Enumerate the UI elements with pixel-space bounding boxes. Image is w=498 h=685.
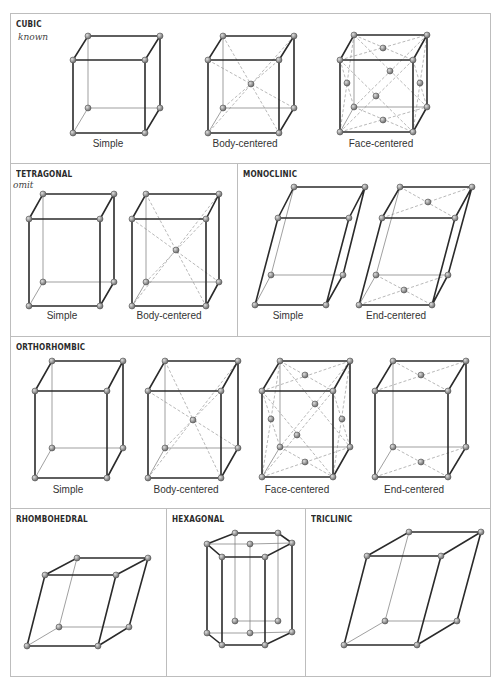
- orthorhombic-face-centered-lattice: [259, 358, 353, 480]
- orthorhombic-body-centered-lattice: [145, 358, 241, 481]
- orthorhombic-simple-lattice: [32, 358, 126, 481]
- monoclinic-simple-lattice: [252, 184, 368, 308]
- cubic-body-centered-lattice: [205, 33, 297, 136]
- cubic-face-centered-lattice: [337, 32, 430, 135]
- tetragonal-body-centered-lattice: [129, 191, 222, 309]
- orthorhombic-end-centered-lattice: [372, 358, 469, 480]
- triclinic-lattice: [341, 529, 484, 648]
- monoclinic-end-centered-lattice: [356, 184, 475, 308]
- lattice-drawings: .a{fill:url(#g);}: [0, 0, 498, 685]
- tetragonal-simple-lattice: [26, 191, 117, 309]
- hexagonal-lattice: [204, 530, 295, 648]
- cubic-simple-lattice: [70, 33, 163, 136]
- rhombohedral-lattice: [24, 555, 151, 649]
